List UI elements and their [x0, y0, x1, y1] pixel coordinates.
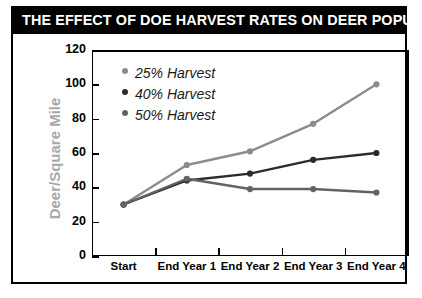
y-tick-label: 40 [72, 179, 86, 193]
x-tick-label: End Year 1 [157, 260, 216, 272]
x-tick-label: End Year 3 [284, 260, 343, 272]
series-point [373, 81, 379, 87]
y-tick-label: 60 [72, 145, 86, 159]
legend-item-label: 50% Harvest [135, 107, 215, 123]
chart-title: THE EFFECT OF DOE HARVEST RATES ON DEER … [11, 12, 407, 28]
x-tick-label: End Year 2 [221, 260, 280, 272]
series-point [310, 121, 316, 127]
y-axis-title: Deer/Square Mile [46, 64, 63, 254]
series-point [373, 150, 379, 156]
legend-marker-icon [122, 110, 128, 116]
y-tick-mark [92, 256, 99, 258]
series-point [247, 186, 253, 192]
y-tick-label: 20 [72, 214, 86, 228]
series-point [373, 189, 379, 195]
series-line [124, 153, 377, 205]
x-tick-label: End Year 4 [347, 260, 406, 272]
series-point [247, 171, 253, 177]
title-bar: THE EFFECT OF DOE HARVEST RATES ON DEER … [11, 6, 407, 34]
chart-figure: THE EFFECT OF DOE HARVEST RATES ON DEER … [0, 0, 422, 298]
series-point [121, 201, 127, 207]
legend-item: 25% Harvest [122, 62, 282, 83]
y-tick-label: 100 [65, 76, 86, 90]
legend-marker-icon [122, 89, 128, 95]
y-tick-label: 80 [72, 111, 86, 125]
legend-item: 50% Harvest [122, 104, 282, 125]
y-tick-label: 0 [79, 248, 86, 262]
series-point [184, 162, 190, 168]
plot-area: 020406080100120 StartEnd Year 1End Year … [92, 50, 408, 256]
series-point [184, 176, 190, 182]
series-point [310, 186, 316, 192]
series-point [247, 148, 253, 154]
y-tick-label: 120 [65, 42, 86, 56]
legend-item: 40% Harvest [122, 83, 282, 104]
legend-marker-icon [122, 68, 128, 74]
x-tick-label: Start [110, 260, 136, 272]
legend-item-label: 25% Harvest [135, 65, 215, 81]
series-point [310, 157, 316, 163]
chart-legend: 25% Harvest40% Harvest50% Harvest [122, 62, 282, 125]
legend-item-label: 40% Harvest [135, 86, 215, 102]
